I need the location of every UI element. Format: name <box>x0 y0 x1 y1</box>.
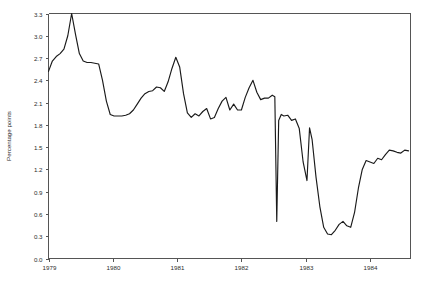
x-tick-label: 1984 <box>364 264 378 271</box>
y-tick-label: 2.7 <box>34 55 43 62</box>
line-chart: 0.00.30.60.91.21.51.82.12.42.73.03.3 197… <box>0 0 424 283</box>
y-tick-label: 3.3 <box>34 11 43 18</box>
y-tick-label: 2.1 <box>34 100 43 107</box>
y-tick-label: 1.8 <box>34 122 43 129</box>
y-tick-label: 0.3 <box>34 233 43 240</box>
y-tick-label: 0.6 <box>34 211 43 218</box>
chart-container: 0.00.30.60.91.21.51.82.12.42.73.03.3 197… <box>0 0 424 283</box>
x-tick-label: 1982 <box>235 264 249 271</box>
x-tick-label: 1983 <box>300 264 314 271</box>
y-tick-label: 2.4 <box>34 77 43 84</box>
y-axis-title: Percentage points <box>5 111 12 161</box>
y-tick-label: 0.0 <box>34 256 43 263</box>
y-tick-label: 1.5 <box>34 144 43 151</box>
y-tick-label: 1.2 <box>34 166 43 173</box>
x-axis-ticks: 197919801981198219831984 <box>43 259 378 271</box>
plot-frame <box>49 14 411 259</box>
y-tick-label: 3.0 <box>34 33 43 40</box>
x-tick-label: 1979 <box>43 264 57 271</box>
x-tick-label: 1981 <box>171 264 185 271</box>
y-axis-ticks: 0.00.30.60.91.21.51.82.12.42.73.03.3 <box>34 11 49 263</box>
y-tick-label: 0.9 <box>34 189 43 196</box>
data-series-group <box>49 14 409 235</box>
x-tick-label: 1980 <box>107 264 121 271</box>
series-line <box>49 14 409 235</box>
